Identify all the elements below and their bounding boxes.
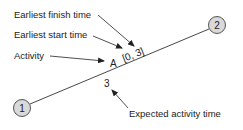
arrow-earliest-start bbox=[93, 36, 122, 48]
activity-annotation-label: Activity bbox=[14, 50, 44, 61]
node-1: 1 bbox=[14, 100, 31, 117]
arrow-earliest-finish bbox=[98, 15, 134, 46]
earliest-start-label: Earliest start time bbox=[14, 29, 87, 40]
activity-label: A bbox=[110, 58, 117, 69]
arrow-activity bbox=[50, 56, 104, 61]
node-2: 2 bbox=[209, 17, 226, 34]
earliest-finish-label: Earliest finish time bbox=[14, 9, 91, 20]
node-2-label: 2 bbox=[214, 20, 220, 31]
expected-time-value: 3 bbox=[104, 78, 110, 89]
arrow-expected-time bbox=[112, 90, 128, 108]
activity-on-arrow-diagram: 1 2 A [0, 3] 3 Earliest finish time Earl… bbox=[0, 0, 243, 130]
expected-activity-time-label: Expected activity time bbox=[129, 108, 221, 119]
node-1-label: 1 bbox=[19, 103, 25, 114]
activity-edge bbox=[30, 29, 209, 104]
